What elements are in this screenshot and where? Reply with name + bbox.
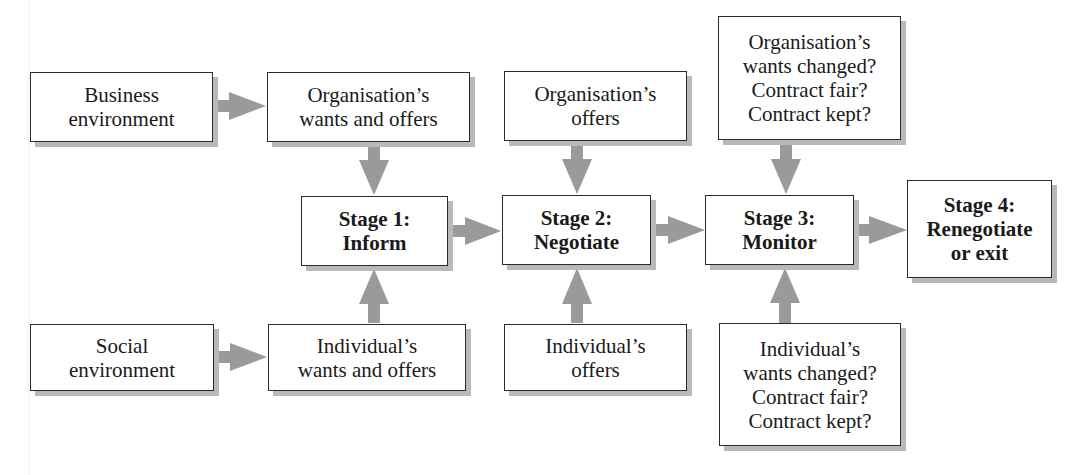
box-label-line: offers xyxy=(571,106,620,130)
box-label-line: Contract kept? xyxy=(748,102,871,126)
box-label-line: offers xyxy=(571,358,620,382)
stage-name: or exit xyxy=(951,241,1008,265)
stage-number: Stage 2: xyxy=(541,206,613,230)
arrow-ind-offers-to-stage2 xyxy=(562,268,592,323)
box-label-line: Business xyxy=(84,83,159,107)
stage-number: Stage 3: xyxy=(744,206,816,230)
social-environment-box: Social environment xyxy=(30,324,214,391)
arrow-ind-review-to-stage3 xyxy=(770,268,800,323)
organisation-offers-box: Organisation’s offers xyxy=(504,71,687,141)
stage-number: Stage 1: xyxy=(339,207,411,231)
box-label-line: Social xyxy=(96,334,149,358)
individual-offers-box: Individual’s offers xyxy=(504,324,687,391)
organisation-review-box: Organisation’s wants changed? Contract f… xyxy=(718,16,901,140)
box-label-line: Individual’s xyxy=(317,334,417,358)
arrow-business-to-org-wants xyxy=(213,92,266,120)
box-label-line: Contract fair? xyxy=(752,385,868,409)
stage-number: Stage 4: xyxy=(944,193,1016,217)
stage2-negotiate-box: Stage 2: Negotiate xyxy=(502,195,651,265)
arrow-stage3-to-stage4 xyxy=(854,216,907,244)
box-label-line: wants and offers xyxy=(298,358,436,382)
box-label-line: Individual’s xyxy=(545,334,645,358)
box-label-line: environment xyxy=(69,358,175,382)
arrow-org-offers-to-stage2 xyxy=(562,142,592,194)
box-label-line: Contract kept? xyxy=(748,409,871,433)
individual-review-box: Individual’s wants changed? Contract fai… xyxy=(719,323,901,446)
arrow-org-review-to-stage3 xyxy=(771,141,801,194)
arrow-stage1-to-stage2 xyxy=(448,217,501,245)
stage1-inform-box: Stage 1: Inform xyxy=(301,196,448,266)
arrow-org-wants-to-stage1 xyxy=(359,143,389,195)
stage3-monitor-box: Stage 3: Monitor xyxy=(705,195,854,265)
stage-name: Renegotiate xyxy=(926,217,1032,241)
stage-name: Negotiate xyxy=(534,230,619,254)
stage-name: Monitor xyxy=(742,230,817,254)
box-label-line: environment xyxy=(68,107,174,131)
individual-wants-offers-box: Individual’s wants and offers xyxy=(268,324,466,391)
organisation-wants-offers-box: Organisation’s wants and offers xyxy=(267,72,470,142)
business-environment-box: Business environment xyxy=(30,72,213,142)
box-label-line: wants and offers xyxy=(299,107,437,131)
arrow-ind-wants-to-stage1 xyxy=(359,269,389,323)
box-label-line: Organisation’s xyxy=(748,30,870,54)
stage4-renegotiate-exit-box: Stage 4: Renegotiate or exit xyxy=(907,180,1052,278)
arrow-social-to-ind-wants xyxy=(214,343,267,371)
box-label-line: wants changed? xyxy=(743,361,877,385)
arrow-stage2-to-stage3 xyxy=(651,216,705,244)
box-label-line: Contract fair? xyxy=(751,78,867,102)
box-label-line: Organisation’s xyxy=(307,83,429,107)
box-label-line: wants changed? xyxy=(743,54,877,78)
stage-name: Inform xyxy=(342,231,406,255)
box-label-line: Individual’s xyxy=(760,337,860,361)
box-label-line: Organisation’s xyxy=(534,82,656,106)
